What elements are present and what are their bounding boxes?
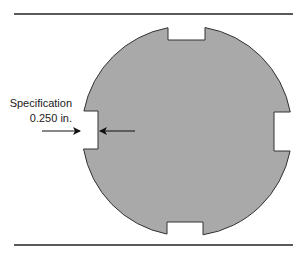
specification-value: 0.250 in.: [30, 111, 72, 125]
notched-disc-diagram: [0, 0, 305, 256]
specification-label: Specification: [10, 96, 72, 110]
